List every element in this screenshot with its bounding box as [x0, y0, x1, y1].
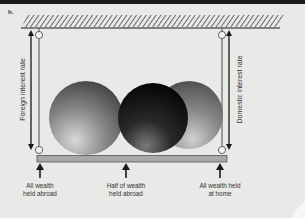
- up-arrow-icon-middle: [122, 163, 130, 178]
- caption-all-home: All wealth held at home: [185, 182, 255, 198]
- up-arrow-icon-right: [216, 163, 224, 178]
- ceiling: [21, 15, 284, 28]
- caption-all-abroad: All wealth held abroad: [5, 182, 75, 198]
- left-double-arrow-icon: [28, 30, 34, 150]
- ball-middle: [118, 83, 188, 153]
- balance-bar: [37, 156, 227, 163]
- right-string: [218, 28, 225, 154]
- ball-left: [49, 81, 123, 155]
- up-arrow-icon-left: [36, 163, 44, 178]
- right-double-arrow-icon: [226, 30, 232, 150]
- caption-half-abroad: Half of wealth held abroad: [91, 182, 161, 198]
- foreign-interest-rate-label: Foreign interest rate: [19, 45, 26, 135]
- page-corner: [293, 198, 305, 218]
- domestic-interest-rate-label: Domestic interest rate: [236, 42, 243, 138]
- left-string: [35, 28, 42, 154]
